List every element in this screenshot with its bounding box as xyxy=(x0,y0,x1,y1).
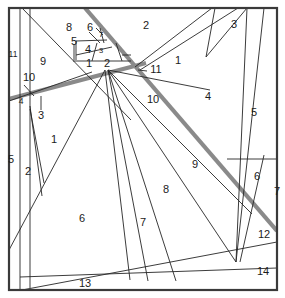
label-region-7-top: 7 xyxy=(99,30,103,39)
label-region-2-top: 2 xyxy=(143,19,149,31)
label-region-5-right: 5 xyxy=(251,106,257,118)
label-region-8: 8 xyxy=(66,21,72,33)
label-region-2-small: 2 xyxy=(104,57,110,69)
label-region-11-left: 11 xyxy=(9,49,18,59)
label-region-7-right: 7 xyxy=(274,185,280,197)
label-region-10-left: 10 xyxy=(23,71,35,83)
label-region-9-left: 9 xyxy=(40,55,46,67)
label-region-2-left: 2 xyxy=(25,165,31,177)
label-region-4-left: 4 xyxy=(19,96,24,106)
label-region-6-top: 6 xyxy=(87,21,93,33)
label-region-1-left: 1 xyxy=(51,133,57,145)
label-region-8-center: 8 xyxy=(163,183,169,195)
label-region-14: 14 xyxy=(257,265,269,277)
line-arrangement-figure: 867235431191211110431045512967867121413 xyxy=(0,0,285,298)
label-region-3-left: 3 xyxy=(38,109,44,121)
label-region-6-center: 6 xyxy=(79,212,85,224)
label-region-4-small: 4 xyxy=(85,43,91,55)
label-region-3-small: 3 xyxy=(99,46,103,55)
label-region-12: 12 xyxy=(258,228,270,240)
label-region-11-center: 11 xyxy=(150,63,161,75)
label-region-1-small: 1 xyxy=(86,57,92,69)
label-region-1-upper-right: 1 xyxy=(175,54,181,66)
label-region-9-center: 9 xyxy=(192,158,198,170)
label-region-7-center: 7 xyxy=(140,216,146,228)
label-region-5-left: 5 xyxy=(8,153,14,165)
label-region-13: 13 xyxy=(79,277,91,289)
label-region-6-right: 6 xyxy=(254,170,260,182)
label-region-3-top: 3 xyxy=(231,18,237,30)
label-region-5-small: 5 xyxy=(71,35,77,47)
label-region-4-right: 4 xyxy=(205,90,211,102)
figure-canvas: 867235431191211110431045512967867121413 xyxy=(0,0,285,298)
label-region-10-center: 10 xyxy=(147,93,159,105)
